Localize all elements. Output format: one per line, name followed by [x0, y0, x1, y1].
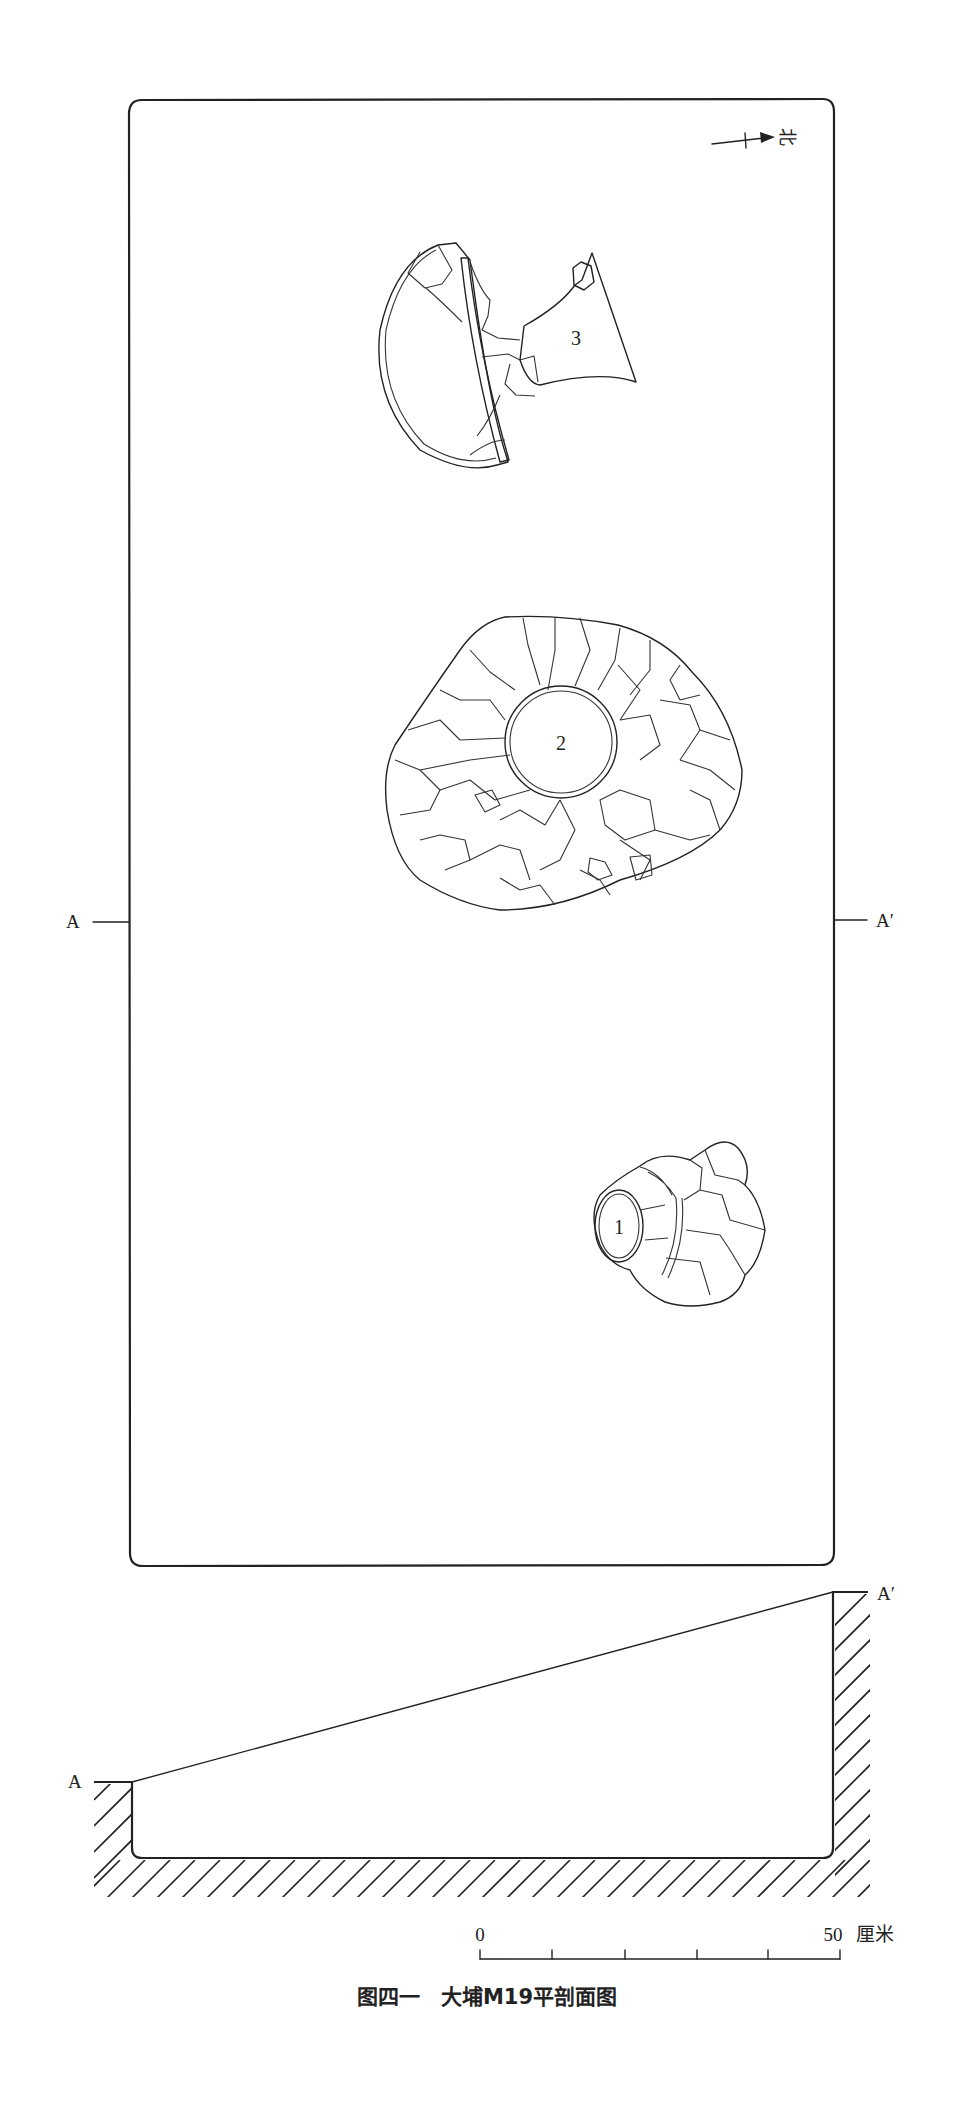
artifact-3-label: 3	[571, 327, 581, 349]
scale-end-label: 50	[824, 1924, 843, 1945]
north-label: 北	[777, 128, 797, 146]
north-arrow: 北	[712, 128, 797, 148]
arrowhead-icon	[760, 132, 775, 143]
figure-caption: 图四一 大埔M19平剖面图	[357, 1985, 617, 2009]
hatch-right	[830, 1588, 872, 1880]
section-line-markers: A A′	[66, 910, 894, 932]
section-profile	[94, 1592, 868, 1858]
hatch-left	[94, 1760, 134, 1878]
scale-unit-label: 厘米	[856, 1924, 894, 1945]
scale-bar: 0 50 厘米	[475, 1924, 894, 1959]
grave-pit-outline	[129, 99, 834, 1566]
plan-label-a-prime: A′	[876, 910, 894, 931]
artifact-1-label: 1	[614, 1216, 624, 1238]
section-label-a-prime: A′	[877, 1583, 895, 1604]
artifact-2-label: 2	[556, 732, 566, 754]
section-label-a: A	[68, 1771, 82, 1792]
plan-view: 北 3	[66, 99, 894, 1566]
sherd-fragments	[395, 617, 735, 905]
plan-label-a: A	[66, 911, 80, 932]
artifact-2: 2	[386, 616, 742, 910]
ground-surface-line	[132, 1592, 833, 1782]
north-arrow-shaft	[712, 138, 764, 144]
scale-start-label: 0	[475, 1924, 485, 1945]
tomb-plan-section-drawing: 北 3	[0, 0, 953, 2112]
section-view: A A′	[68, 1583, 895, 1900]
north-arrow-tick	[745, 133, 746, 148]
artifact-1: 1	[594, 1142, 765, 1306]
hatch-bottom	[80, 1860, 895, 1900]
artifact-3: 3	[379, 243, 636, 468]
